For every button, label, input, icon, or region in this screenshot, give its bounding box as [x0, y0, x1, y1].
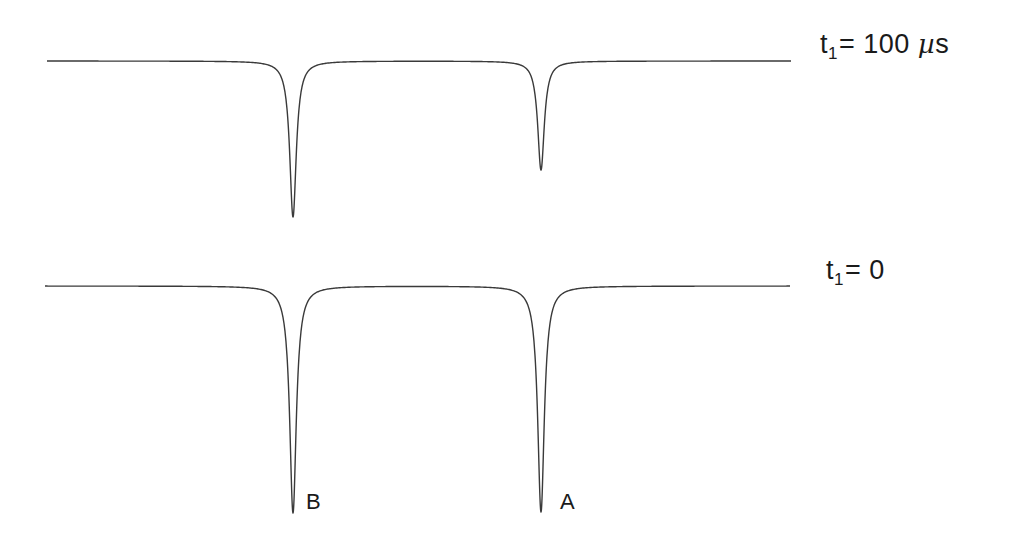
label-value: = 0 [845, 255, 885, 285]
label-t: t [826, 255, 834, 285]
peak-label-b: B [306, 489, 321, 515]
series-label-t1-100us: t1= 100 µs [820, 29, 949, 64]
trace-t1-0 [45, 286, 790, 513]
label-mu: µ [918, 29, 935, 59]
label-unit: s [935, 29, 949, 59]
label-subscript: 1 [828, 44, 838, 63]
label-value: = 100 [839, 29, 918, 59]
trace-t1-100us [47, 61, 791, 217]
label-t: t [820, 29, 828, 59]
label-subscript: 1 [834, 270, 844, 289]
peak-label-a: A [560, 489, 575, 515]
series-label-t1-0: t1= 0 [826, 255, 885, 290]
